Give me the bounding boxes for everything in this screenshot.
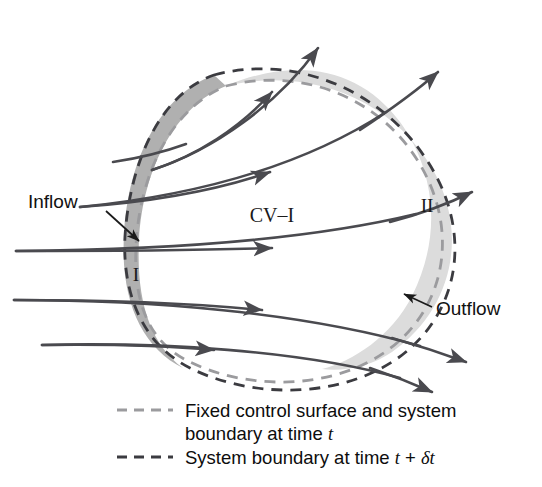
outflow-label: Outflow (436, 298, 501, 319)
region-two-label: II (421, 195, 434, 216)
streamline-5-mid-arrow (42, 345, 214, 350)
legend: Fixed control surface and system boundar… (117, 400, 456, 468)
region-one-label: I (133, 264, 139, 285)
streamline-4-tip (392, 338, 466, 362)
legend-fixed-line2-italic: t (328, 424, 334, 444)
region-two-shading (200, 40, 500, 400)
streamline-3 (16, 214, 416, 251)
inflow-label: Inflow (28, 191, 78, 212)
streamlines (14, 48, 472, 392)
legend-fixed-line2-prefix: boundary at time (185, 423, 328, 444)
control-volume-label: CV–I (250, 204, 294, 226)
streamline-5-tip (370, 368, 432, 392)
legend-system-prefix: System boundary at time (185, 447, 395, 468)
legend-label-fixed-line2: boundary at time t (185, 423, 334, 444)
legend-system-italic-b: δt (421, 448, 436, 468)
legend-system-mid: + (400, 447, 421, 468)
figure-container: Inflow Outflow CV–I I II Fixed control s… (0, 0, 542, 487)
legend-label-fixed-line1: Fixed control surface and system (185, 400, 456, 421)
legend-label-system: System boundary at time t + δt (185, 447, 436, 468)
control-volume-diagram: Inflow Outflow CV–I I II Fixed control s… (0, 0, 542, 487)
